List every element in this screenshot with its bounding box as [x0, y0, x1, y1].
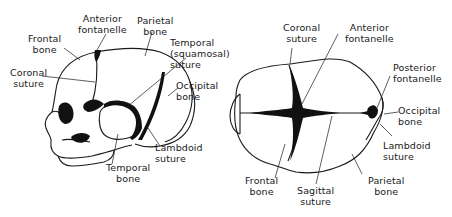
label-parietal-bone: Parietal bone [137, 15, 174, 37]
label-coronal-suture: Coronal suture [10, 67, 47, 89]
label-coronal-suture-superior: Coronal suture [283, 22, 320, 44]
label-temporal-bone: Temporal bone [106, 162, 150, 184]
infant-skull-diagram: Frontal bone Anterior fontanelle Parieta… [0, 0, 452, 217]
label-anterior-fontanelle: Anterior fontanelle [78, 13, 127, 35]
lateral-skull-dark-regions [58, 50, 165, 143]
label-temporal-squamosal-suture: Temporal (squamosal) suture [170, 37, 230, 70]
label-occipital-bone: Occipital bone [176, 80, 218, 102]
label-posterior-fontanelle: Posterior fontanelle [393, 62, 442, 84]
label-frontal-bone: Frontal bone [28, 33, 61, 55]
label-frontal-bone-superior: Frontal bone [245, 175, 278, 197]
label-lambdoid-suture-superior: Lambdoid suture [383, 140, 431, 162]
label-parietal-bone-superior: Parietal bone [368, 175, 405, 197]
label-occipital-bone-superior: Occipital bone [398, 105, 440, 127]
label-lambdoid-suture: Lambdoid suture [155, 142, 203, 164]
label-sagittal-suture: Sagittal suture [297, 185, 334, 207]
label-anterior-fontanelle-superior: Anterior fontanelle [345, 22, 394, 44]
